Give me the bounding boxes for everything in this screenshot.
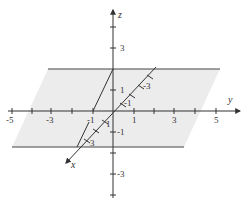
y-tick-label: -5: [6, 115, 14, 125]
z-axis-label: z: [117, 9, 122, 20]
coordinate-diagram: z y x -5 -3 -1 1 3 5 3 1 -1 -3 -3 -1 1 3: [0, 0, 252, 208]
x-tick-label: 1: [106, 119, 111, 129]
z-tick-label: 3: [120, 43, 125, 53]
y-tick-label: 5: [214, 115, 219, 125]
x-tick-label: -3: [143, 81, 151, 91]
y-tick-label: -1: [87, 115, 95, 125]
y-tick-label: -3: [46, 115, 54, 125]
x-tick-label: 3: [90, 138, 95, 148]
x-tick-label: -1: [124, 98, 132, 108]
z-tick-label: -3: [117, 169, 125, 179]
y-tick-label: 1: [132, 115, 137, 125]
z-tick-label: -1: [117, 127, 125, 137]
y-axis-label: y: [227, 94, 233, 105]
y-tick-label: 3: [172, 115, 177, 125]
plane-region: [12, 69, 220, 147]
z-tick-label: 1: [120, 85, 125, 95]
x-axis-label: x: [70, 159, 76, 170]
